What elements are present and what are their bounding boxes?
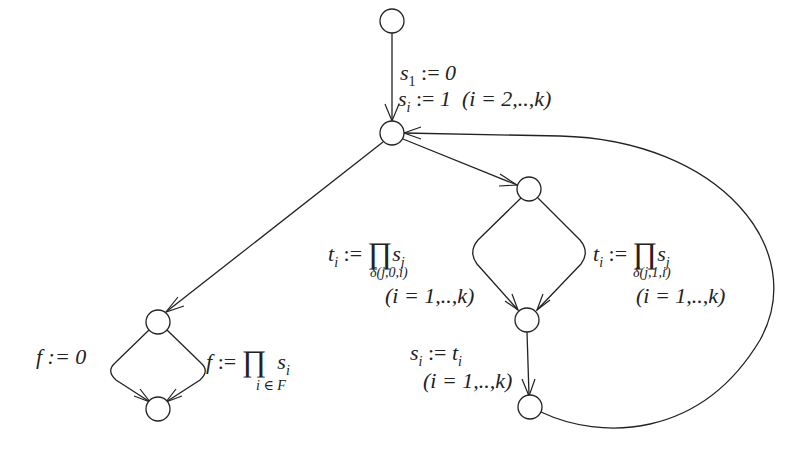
edge-n1-n2 [403, 139, 517, 185]
state-node-loop-head[interactable] [380, 121, 404, 145]
term-subscript: i [286, 363, 290, 378]
operator: := [428, 340, 447, 365]
operator: := [609, 241, 628, 266]
label-right-branch-range: (i = 1,..,k) [636, 285, 725, 307]
subscript: i [419, 354, 423, 369]
value: 1 [440, 86, 451, 111]
label-f-prod-under: i ∈ F [256, 379, 286, 393]
label-assign-range: (i = 1,..,k) [423, 370, 512, 392]
value: 0 [445, 60, 456, 85]
label-right-branch-under: δ(j,1,i) [633, 266, 671, 280]
var: f [206, 349, 212, 374]
operator: := [344, 241, 363, 266]
state-node-final-branch[interactable] [146, 310, 170, 334]
state-node-start[interactable] [380, 9, 404, 33]
edge-n3-n4-left [111, 330, 150, 402]
var: s [398, 86, 407, 111]
edge-n2-n5-right [537, 198, 585, 310]
state-node-merge[interactable] [515, 308, 539, 332]
range: (i = 2,..,k) [462, 86, 551, 111]
label-init-s1: s1 := 0 [400, 62, 456, 84]
label-left-branch-range: (i = 1,..,k) [385, 285, 474, 307]
state-node-assign[interactable] [518, 395, 542, 419]
label-init-si: si := 1 (i = 2,..,k) [398, 88, 551, 110]
edge-n1-n3 [166, 142, 383, 312]
term: s [392, 241, 401, 266]
label-f-zero: f := 0 [36, 346, 86, 368]
label-f-prod: f := ∏ si [206, 344, 290, 374]
label-left-branch: ti := ∏sj [328, 236, 405, 266]
label-left-branch-under: δ(j,0,i) [370, 266, 408, 280]
subscript: i [599, 255, 603, 270]
label-assign: si := ti [410, 342, 462, 364]
subscript: i [407, 100, 411, 115]
state-node-branch[interactable] [517, 177, 541, 201]
value-subscript: i [458, 354, 462, 369]
product-symbol: ∏ [242, 344, 267, 377]
operator: := [416, 86, 435, 111]
edge-n2-n5-left [473, 198, 521, 310]
var: s [400, 60, 409, 85]
var: s [410, 340, 419, 365]
operator: := [218, 349, 237, 374]
subscript: i [334, 255, 338, 270]
state-node-final[interactable] [146, 397, 170, 421]
term: s [657, 241, 666, 266]
label-right-branch: ti := ∏sj [593, 236, 670, 266]
term: s [277, 349, 286, 374]
operator: := [421, 60, 440, 85]
edge-n3-n4-right [166, 330, 205, 402]
edge-n5-n6 [527, 332, 529, 395]
